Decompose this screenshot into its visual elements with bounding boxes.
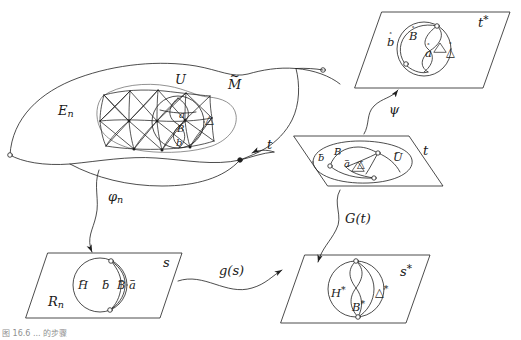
plane-label-t: t [423,144,428,157]
arrow-phi-n-path [90,170,99,252]
plane-label-s: s [163,256,170,269]
label-a-bar-t: –a [344,159,350,169]
arrow-label-t: t [267,138,272,151]
label-a-ring: ˚a [425,48,432,60]
label-b-bar-s: –b [102,280,109,292]
label-B-bar-t: –B [334,147,341,157]
label-E-n: En [58,104,74,119]
triangulation-mesh [100,90,214,152]
figure-root: En U ~M a B b △ φn t ψ G(t) g(s) t* ˚b ˚… [0,0,521,340]
label-B-bar-s: –B [117,280,125,292]
label-U-bar-t: –U [393,152,403,164]
label-H-star: H* [331,285,346,299]
plane-label-s-star: s* [400,263,412,278]
arrow-label-G-of-t: G(t) [345,212,371,225]
label-M-tilde: ~M [228,78,241,91]
arrow-label-phi-n: φn [108,190,123,205]
arrow-label-psi: ψ [389,103,399,116]
label-B-star: B* [352,299,365,313]
label-b-ring: ˚b [387,37,394,49]
plane-t [294,136,443,186]
label-R-n: Rn [48,295,64,310]
manifold-outline [8,63,340,186]
label-H-bar-s: –H [78,280,88,292]
label-delta: △ [205,114,214,126]
label-b: b [176,138,182,148]
label-B: B [177,124,184,134]
plane-label-t-star: t* [478,14,488,29]
label-delta-star: △* [375,284,388,298]
label-b-bar-t: –b [318,153,324,163]
label-U: U [175,73,186,86]
figure-caption: 图 16.6 ... 的步骤 [2,327,67,338]
label-B-ring: ˚B [409,31,417,43]
label-delta-bar-t: –△ [357,160,365,170]
label-a-bar-s: –a [129,280,136,292]
label-a: a [179,110,185,120]
arrow-G-of-t-path [318,190,340,262]
label-delta-ring: ˚△ [446,47,455,59]
arrow-label-g-of-s: g(s) [219,264,244,277]
